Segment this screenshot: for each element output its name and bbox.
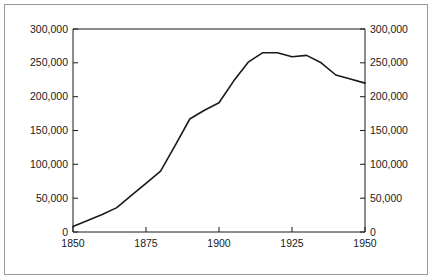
- line-chart: 0 50,000 100,000 150,000 200,000 250,000…: [0, 0, 432, 279]
- x-tick-label-1850: 1850: [61, 237, 85, 249]
- x-tick-label-1900: 1900: [207, 237, 231, 249]
- left-axis-tick-labels: 0 50,000 100,000 150,000 200,000 250,000…: [30, 23, 68, 238]
- x-tick-label-1925: 1925: [280, 237, 304, 249]
- plot-area-frame: [73, 29, 365, 232]
- chart-figure: 0 50,000 100,000 150,000 200,000 250,000…: [0, 0, 432, 279]
- data-series-line: [73, 53, 365, 227]
- left-tick-label-50000: 50,000: [36, 192, 68, 204]
- x-axis-tick-labels: 1850 1875 1900 1925 1950: [61, 237, 377, 249]
- right-tick-label-300000: 300,000: [370, 23, 408, 35]
- right-axis-ticks: [360, 29, 365, 232]
- right-tick-label-100000: 100,000: [370, 158, 408, 170]
- left-tick-label-300000: 300,000: [30, 23, 68, 35]
- right-tick-label-150000: 150,000: [370, 124, 408, 136]
- right-tick-label-200000: 200,000: [370, 90, 408, 102]
- right-tick-label-50000: 50,000: [370, 192, 402, 204]
- x-tick-label-1950: 1950: [353, 237, 377, 249]
- left-tick-label-200000: 200,000: [30, 90, 68, 102]
- right-tick-label-250000: 250,000: [370, 56, 408, 68]
- left-tick-label-150000: 150,000: [30, 124, 68, 136]
- x-axis-ticks: [73, 227, 365, 232]
- left-tick-label-0: 0: [62, 226, 68, 238]
- left-tick-label-100000: 100,000: [30, 158, 68, 170]
- right-axis-tick-labels: 0 50,000 100,000 150,000 200,000 250,000…: [370, 23, 408, 238]
- left-tick-label-250000: 250,000: [30, 56, 68, 68]
- x-tick-label-1875: 1875: [134, 237, 158, 249]
- left-axis-ticks: [73, 29, 78, 232]
- right-tick-label-0: 0: [370, 226, 376, 238]
